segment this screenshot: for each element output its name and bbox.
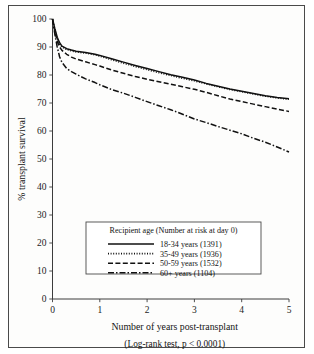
y-tick-label: 90 xyxy=(37,42,47,52)
survival-curve-35-49-years xyxy=(53,19,290,99)
x-tick-label: 3 xyxy=(192,305,197,315)
legend-title: Recipient age (Number at risk at day 0) xyxy=(110,226,238,235)
survival-chart: 0102030405060708090100012345Number of ye… xyxy=(9,6,306,349)
figure-frame: 0102030405060708090100012345Number of ye… xyxy=(8,5,305,348)
log-rank-footnote: (Log-rank test, p < 0.0001) xyxy=(124,339,225,349)
y-tick-label: 0 xyxy=(42,294,47,304)
x-tick-label: 5 xyxy=(287,305,292,315)
survival-curve-50-59-years xyxy=(53,19,290,111)
y-tick-label: 40 xyxy=(37,182,47,192)
x-tick-label: 0 xyxy=(50,305,55,315)
y-tick-label: 10 xyxy=(37,266,47,276)
legend-label-50-59-years: 50-59 years (1532) xyxy=(160,259,222,268)
x-tick-label: 1 xyxy=(97,305,102,315)
survival-curve-18-34-years xyxy=(53,19,290,99)
legend-label-60-years: 60+ years (1104) xyxy=(160,269,215,278)
y-tick-label: 30 xyxy=(37,210,47,220)
x-tick-label: 4 xyxy=(239,305,244,315)
y-tick-label: 50 xyxy=(37,154,47,164)
legend-label-18-34-years: 18-34 years (1391) xyxy=(160,240,222,249)
y-tick-label: 80 xyxy=(37,70,47,80)
y-tick-label: 70 xyxy=(37,98,47,108)
y-axis-title: % transplant survival xyxy=(16,117,27,201)
y-tick-label: 100 xyxy=(32,14,47,24)
legend-label-35-49-years: 35-49 years (1936) xyxy=(160,250,222,259)
y-tick-label: 60 xyxy=(37,126,47,136)
y-tick-label: 20 xyxy=(37,238,47,248)
x-tick-label: 2 xyxy=(145,305,150,315)
x-axis-title: Number of years post-transplant xyxy=(111,321,238,332)
survival-curve-60-years xyxy=(53,19,290,152)
